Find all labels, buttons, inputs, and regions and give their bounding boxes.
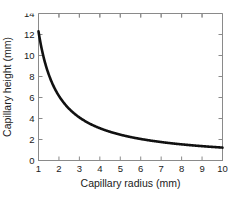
curve-top-mask <box>0 0 235 14</box>
x-tick-label: 10 <box>217 163 228 174</box>
y-tick-label: 4 <box>29 113 34 124</box>
x-tick-label: 9 <box>199 163 204 174</box>
y-axis-title: Capillary height (mm) <box>1 37 13 137</box>
x-tick-label: 1 <box>36 163 41 174</box>
x-tick-label: 5 <box>118 163 123 174</box>
figure-container: 1234567891002468101214Capillary radius (… <box>0 0 235 198</box>
capillary-height-chart: 1234567891002468101214Capillary radius (… <box>0 0 235 198</box>
x-tick-label: 4 <box>97 163 102 174</box>
y-tick-label: 12 <box>24 29 35 40</box>
x-axis-title: Capillary radius (mm) <box>81 177 181 189</box>
x-tick-label: 6 <box>138 163 143 174</box>
x-tick-label: 7 <box>159 163 164 174</box>
x-tick-label: 8 <box>179 163 184 174</box>
y-tick-label: 2 <box>29 134 34 145</box>
y-tick-label: 0 <box>29 155 34 166</box>
y-tick-label: 6 <box>29 92 34 103</box>
y-tick-label: 8 <box>29 71 34 82</box>
y-tick-label: 10 <box>24 50 35 61</box>
x-tick-label: 3 <box>77 163 82 174</box>
x-tick-label: 2 <box>56 163 61 174</box>
